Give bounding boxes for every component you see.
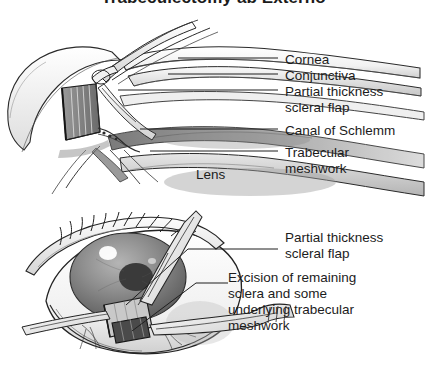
label-partial-thickness-scleral-flap: Partial thickness scleral flap xyxy=(285,84,425,116)
label-line: Partial thickness xyxy=(285,84,425,100)
label-line: meshwork xyxy=(228,318,424,334)
label-excision: Excision of remaining sclera and some un… xyxy=(228,270,424,334)
label-line: Partial thickness xyxy=(285,230,425,246)
label-line: Trabecular xyxy=(285,145,425,161)
label-line: underlying trabecular xyxy=(228,302,424,318)
label-line: Excision of remaining xyxy=(228,270,424,286)
label-line: sclera and some xyxy=(228,286,424,302)
label-conjunctiva: Conjunctiva xyxy=(285,68,356,84)
scleral-flap-raised xyxy=(104,297,152,343)
label-line: meshwork xyxy=(285,161,425,177)
label-line: scleral flap xyxy=(285,246,425,262)
label-partial-thickness-scleral-flap-2: Partial thickness scleral flap xyxy=(285,230,425,262)
label-cornea: Cornea xyxy=(285,52,329,68)
label-lens: Lens xyxy=(196,167,225,182)
label-canal-of-schlemm: Canal of Schlemm xyxy=(285,123,395,139)
scleral-flap-block xyxy=(62,84,100,140)
corneal-light-reflex xyxy=(99,246,117,260)
label-line: scleral flap xyxy=(285,100,425,116)
blade-instrument xyxy=(98,84,156,140)
illustration-page: Trabeculectomy ab Externo xyxy=(0,0,427,365)
label-trabecular-meshwork: Trabecular meshwork xyxy=(285,145,425,177)
